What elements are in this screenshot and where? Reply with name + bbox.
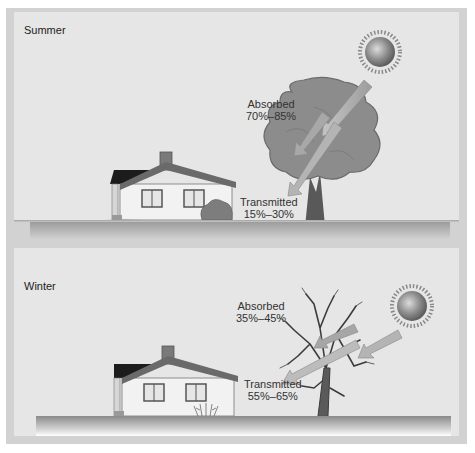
summer-ground-band bbox=[30, 222, 450, 240]
absorbed-label: Absorbed bbox=[236, 300, 286, 312]
absorbed-annotation-summer: Absorbed 70%–85% bbox=[246, 98, 296, 122]
figure-frame: Summer bbox=[6, 8, 467, 444]
transmitted-label: Transmitted bbox=[240, 196, 298, 208]
summer-panel: Summer bbox=[14, 12, 459, 222]
absorbed-range: 35%–45% bbox=[236, 312, 286, 324]
sun-icon bbox=[392, 286, 432, 326]
transmitted-range: 15%–30% bbox=[240, 208, 298, 220]
absorbed-label: Absorbed bbox=[246, 98, 296, 110]
transmitted-annotation-winter: Transmitted 55%–65% bbox=[244, 378, 302, 402]
sun-icon bbox=[360, 32, 400, 72]
winter-panel: Winter bbox=[14, 248, 459, 436]
ground bbox=[36, 416, 451, 436]
summer-scene bbox=[14, 12, 459, 222]
winter-scene bbox=[14, 248, 459, 436]
transmitted-annotation-summer: Transmitted 15%–30% bbox=[240, 196, 298, 220]
absorbed-range: 70%–85% bbox=[246, 110, 296, 122]
transmitted-range: 55%–65% bbox=[244, 390, 302, 402]
house-icon bbox=[114, 346, 238, 416]
transmitted-label: Transmitted bbox=[244, 378, 302, 390]
absorbed-annotation-winter: Absorbed 35%–45% bbox=[236, 300, 286, 324]
